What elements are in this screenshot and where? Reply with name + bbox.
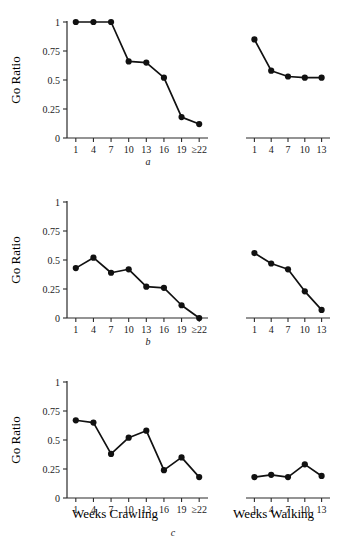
- panel-letter-a: a: [0, 156, 321, 167]
- data-point: [126, 266, 132, 272]
- data-point: [161, 285, 167, 291]
- y-tick-label: 0: [55, 493, 60, 504]
- data-point: [108, 19, 114, 25]
- y-tick-label: 0: [55, 313, 60, 324]
- x-tick-label: ≥22: [191, 504, 207, 515]
- data-point: [178, 454, 184, 460]
- data-point: [143, 428, 149, 434]
- x-tick-label: 4: [269, 324, 274, 335]
- data-point: [251, 36, 257, 42]
- x-tick-label: 19: [177, 504, 187, 515]
- panel-b-plot: 14710131619≥2200.250.50.751Go Ratio14710…: [0, 180, 346, 360]
- data-point: [161, 75, 167, 81]
- data-line: [76, 420, 199, 477]
- y-tick-label: 0.25: [43, 104, 61, 115]
- x-tick-label: 1: [252, 324, 257, 335]
- data-point: [161, 467, 167, 473]
- x-tick-label: 7: [109, 324, 114, 335]
- data-point: [73, 19, 79, 25]
- data-point: [268, 68, 274, 74]
- data-point: [178, 114, 184, 120]
- data-line: [76, 22, 199, 124]
- y-tick-label: 0.75: [43, 406, 61, 417]
- x-tick-label: 13: [317, 144, 327, 155]
- x-tick-label: 16: [159, 144, 169, 155]
- x-tick-label: 10: [124, 144, 134, 155]
- x-tick-label: 1: [252, 144, 257, 155]
- data-point: [178, 302, 184, 308]
- data-point: [143, 284, 149, 290]
- x-tick-label: 13: [141, 144, 151, 155]
- x-tick-label: 4: [269, 144, 274, 155]
- x-tick-label: ≥22: [191, 144, 207, 155]
- x-tick-label: ≥22: [191, 324, 207, 335]
- x-tick-label: 10: [124, 324, 134, 335]
- data-point: [108, 451, 114, 457]
- x-tick-label: 7: [286, 324, 291, 335]
- data-point: [143, 60, 149, 66]
- data-point: [302, 461, 308, 467]
- x-tick-label: 13: [317, 504, 327, 515]
- data-point: [126, 58, 132, 64]
- x-tick-label: 4: [91, 324, 96, 335]
- y-tick-label: 1: [55, 377, 60, 388]
- x-tick-label: 7: [286, 144, 291, 155]
- y-tick-label: 1: [55, 197, 60, 208]
- data-point: [319, 307, 325, 313]
- y-tick-label: 0.5: [48, 255, 61, 266]
- data-point: [196, 315, 202, 321]
- x-tick-label: 19: [177, 144, 187, 155]
- x-tick-label: 13: [317, 324, 327, 335]
- data-point: [319, 473, 325, 479]
- y-tick-label: 0.5: [48, 435, 61, 446]
- data-point: [302, 288, 308, 294]
- data-point: [126, 435, 132, 441]
- data-point: [108, 270, 114, 276]
- data-line: [76, 258, 199, 318]
- data-point: [90, 255, 96, 261]
- x-tick-label: 10: [300, 144, 310, 155]
- x-tick-label: 13: [141, 324, 151, 335]
- x-tick-label: 16: [159, 324, 169, 335]
- data-point: [302, 75, 308, 81]
- x-tick-label: 16: [159, 504, 169, 515]
- y-tick-label: 0.25: [43, 464, 61, 475]
- data-point: [251, 474, 257, 480]
- x-tick-label: 7: [109, 144, 114, 155]
- data-point: [196, 121, 202, 127]
- data-line: [254, 253, 321, 310]
- y-axis-title: Go Ratio: [8, 56, 23, 103]
- y-tick-label: 0.25: [43, 284, 61, 295]
- data-point: [285, 73, 291, 79]
- panel-letter-c: c: [0, 527, 346, 538]
- panel-letter-b: b: [0, 336, 321, 347]
- x-tick-label: 19: [177, 324, 187, 335]
- x-tick-label: 1: [73, 324, 78, 335]
- y-axis-title: Go Ratio: [8, 416, 23, 463]
- x-axis-title-walking: Weeks Walking: [233, 506, 314, 522]
- data-point: [90, 19, 96, 25]
- y-tick-label: 0.75: [43, 46, 61, 57]
- data-point: [196, 474, 202, 480]
- data-point: [285, 266, 291, 272]
- data-point: [90, 420, 96, 426]
- figure-go-ratio: 14710131619≥2200.250.50.751Go Ratio14710…: [0, 0, 346, 549]
- x-tick-label: 1: [73, 144, 78, 155]
- panel-a: 14710131619≥2200.250.50.751Go Ratio14710…: [0, 0, 346, 180]
- data-line: [254, 39, 321, 77]
- y-tick-label: 0: [55, 133, 60, 144]
- y-axis-title: Go Ratio: [8, 236, 23, 283]
- data-point: [285, 474, 291, 480]
- x-tick-label: 4: [91, 144, 96, 155]
- data-point: [268, 260, 274, 266]
- data-point: [268, 472, 274, 478]
- panel-b: 14710131619≥2200.250.50.751Go Ratio14710…: [0, 180, 346, 360]
- data-point: [73, 265, 79, 271]
- data-point: [73, 417, 79, 423]
- x-tick-label: 10: [300, 324, 310, 335]
- data-point: [319, 75, 325, 81]
- data-point: [251, 250, 257, 256]
- y-tick-label: 0.75: [43, 226, 61, 237]
- y-tick-label: 1: [55, 17, 60, 28]
- x-axis-title-crawling: Weeks Crawling: [72, 506, 158, 522]
